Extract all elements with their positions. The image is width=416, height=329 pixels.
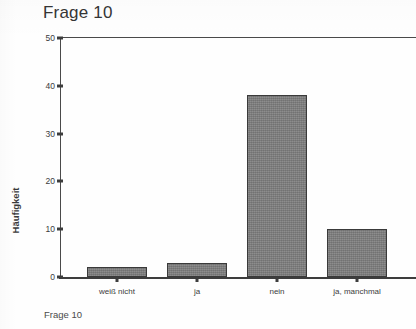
y-axis-tick-label: 40 (46, 81, 55, 91)
y-axis-tick-label: 50 (46, 33, 55, 43)
plot-area: 01020304050 weiß nichtjaneinja, manchmal (60, 38, 416, 277)
y-axis-tick (57, 37, 63, 40)
axis-spine-left (60, 37, 61, 278)
y-axis-tick (57, 276, 63, 279)
bar-chart-figure: Frage 10 Häufigkeit 01020304050 weiß nic… (0, 0, 416, 329)
bar (327, 229, 387, 277)
y-axis-tick-label: 0 (50, 272, 55, 282)
x-axis-tick (196, 277, 199, 282)
bar (87, 267, 147, 277)
axis-spine-top (60, 37, 416, 38)
y-axis-tick (57, 84, 63, 87)
y-axis-tick-label: 20 (46, 176, 55, 186)
y-axis-tick (57, 228, 63, 231)
x-axis-tick-label: ja (194, 287, 200, 296)
x-axis-tick-label: ja, manchmal (333, 287, 381, 296)
axis-spine-bottom (59, 277, 416, 279)
y-axis-tick-label: 30 (46, 129, 55, 139)
bar (167, 263, 227, 277)
x-axis-tick-label: weiß nicht (99, 287, 135, 296)
chart-caption: Frage 10 (44, 309, 82, 320)
y-axis-tick-label: 10 (46, 224, 55, 234)
x-axis-tick (276, 277, 279, 282)
x-axis-tick-label: nein (269, 287, 284, 296)
chart-title: Frage 10 (43, 3, 113, 23)
x-axis-tick (356, 277, 359, 282)
x-axis-tick (116, 277, 119, 282)
y-axis-tick (57, 180, 63, 183)
bar (247, 95, 307, 277)
y-axis-tick (57, 132, 63, 135)
y-axis-title: Häufigkeit (10, 176, 21, 246)
